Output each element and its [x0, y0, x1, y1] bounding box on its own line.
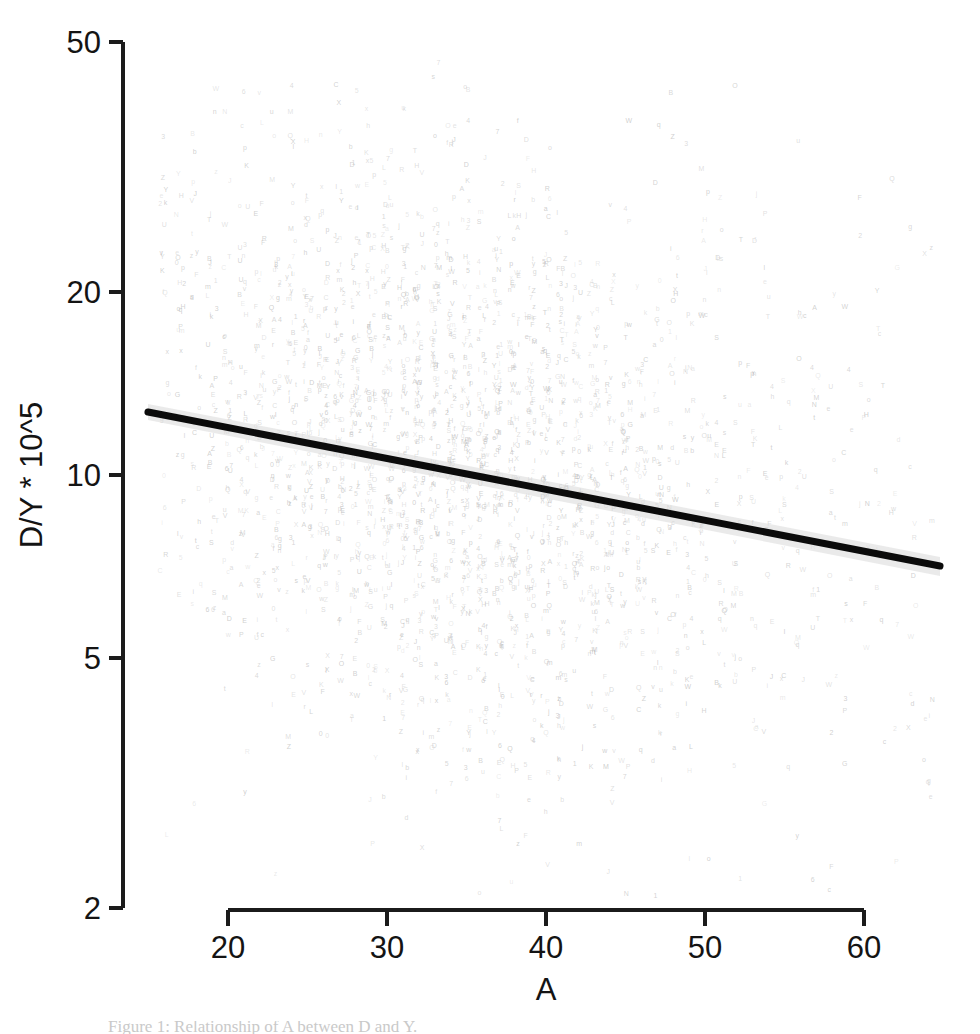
scatter-marker: S: [782, 501, 787, 508]
scatter-marker: J: [228, 177, 232, 184]
scatter-marker: 4: [847, 366, 851, 373]
scatter-marker: M: [657, 444, 663, 451]
scatter-marker: F: [746, 362, 750, 369]
scatter-marker: w: [430, 613, 437, 620]
scatter-marker: h: [351, 462, 355, 469]
scatter-marker: u: [572, 667, 576, 674]
scatter-marker: i: [534, 457, 536, 464]
scatter-marker: F: [467, 425, 471, 432]
scatter-marker: W: [256, 592, 263, 599]
scatter-marker: W: [825, 681, 832, 688]
scatter-marker: J: [350, 424, 354, 431]
scatter-marker: W: [213, 85, 220, 92]
scatter-marker: Q: [889, 175, 895, 183]
scatter-marker: p: [397, 643, 401, 651]
scatter-marker: d: [400, 369, 404, 376]
scatter-marker: C: [352, 337, 357, 344]
scatter-marker: p: [469, 379, 473, 387]
scatter-marker: Q: [162, 289, 168, 297]
scatter-marker: k: [383, 687, 387, 694]
scatter-marker: 1: [433, 320, 437, 327]
scatter-marker: s: [412, 592, 416, 599]
scatter-marker: a: [447, 696, 451, 703]
scatter-marker: 5: [667, 456, 671, 463]
scatter-marker: O: [669, 370, 675, 377]
scatter-marker: U: [254, 634, 259, 641]
scatter-marker: 0: [175, 259, 179, 266]
scatter-marker: z: [532, 303, 536, 310]
scatter-marker: I: [556, 209, 558, 216]
scatter-marker: r: [542, 522, 545, 529]
scatter-marker: 0: [341, 487, 345, 494]
scatter-marker: k: [262, 369, 266, 376]
scatter-marker: 3: [161, 133, 165, 140]
scatter-marker: 4: [572, 472, 576, 479]
scatter-marker: M: [353, 587, 359, 594]
scatter-marker: E: [240, 300, 245, 307]
scatter-marker: Q: [515, 532, 521, 540]
scatter-marker: y: [515, 554, 519, 562]
scatter-marker: M: [301, 460, 307, 467]
scatter-marker: c: [276, 419, 280, 426]
scatter-marker: k: [469, 608, 473, 615]
scatter-marker: Z: [324, 596, 329, 603]
scatter-marker: C: [367, 564, 372, 571]
scatter-marker: U: [205, 341, 210, 348]
scatter-marker: T: [215, 517, 220, 524]
scatter-marker: j: [656, 626, 659, 634]
scatter-marker: I: [518, 341, 520, 348]
x-tick-label-30: 30: [370, 930, 404, 965]
scatter-marker: g: [335, 584, 339, 592]
scatter-marker: 7: [415, 480, 419, 487]
scatter-marker: p: [532, 592, 536, 600]
scatter-marker: u: [592, 608, 596, 615]
scatter-marker: 2: [501, 180, 505, 187]
scatter-marker: h: [686, 481, 690, 488]
scatter-marker: h: [557, 756, 561, 763]
scatter-marker: 5: [337, 569, 341, 576]
scatter-marker: y: [303, 493, 307, 501]
scatter-marker: D: [477, 516, 482, 523]
scatter-marker: a: [544, 205, 548, 212]
scatter-marker: 0: [434, 241, 438, 248]
scatter-marker: S: [477, 218, 482, 225]
scatter-marker: X: [325, 652, 330, 659]
scatter-marker: 0: [162, 472, 166, 479]
scatter-marker: e: [763, 278, 767, 285]
scatter-marker: o: [738, 655, 742, 662]
scatter-marker: P: [752, 666, 757, 673]
scatter-marker: C: [563, 356, 568, 363]
scatter-marker: T: [610, 601, 615, 608]
scatter-marker: k: [706, 420, 710, 427]
scatter-marker: Y: [494, 256, 499, 263]
scatter-marker: m: [445, 564, 451, 571]
scatter-marker: H: [864, 411, 869, 418]
scatter-marker: q: [320, 207, 324, 215]
scatter-marker: y: [286, 337, 290, 345]
scatter-marker: x: [276, 564, 280, 571]
scatter-marker: 7: [229, 462, 233, 469]
scatter-marker: 1: [499, 248, 503, 255]
scatter-marker: e: [478, 304, 482, 311]
scatter-marker: V: [510, 653, 515, 660]
scatter-marker: w: [224, 398, 231, 405]
scatter-marker: I: [483, 421, 485, 428]
scatter-marker: j: [384, 602, 387, 610]
scatter-marker: U: [498, 350, 503, 357]
scatter-marker: Y: [492, 729, 497, 736]
scatter-marker: U: [245, 203, 250, 210]
scatter-marker: V: [462, 283, 467, 290]
scatter-marker: Y: [337, 128, 342, 135]
scatter-marker: u: [390, 201, 394, 208]
scatter-marker: 5: [445, 760, 449, 767]
scatter-marker: X: [514, 455, 519, 462]
scatter-marker: V: [762, 728, 767, 735]
scatter-marker: c: [436, 502, 440, 509]
scatter-marker: P: [477, 391, 482, 398]
scatter-marker: N: [700, 540, 705, 547]
scatter-marker: q: [465, 485, 469, 493]
scatter-marker: 7: [401, 714, 405, 721]
scatter-marker: K: [463, 547, 468, 554]
scatter-marker: q: [595, 305, 599, 313]
scatter-marker: P: [354, 252, 359, 259]
